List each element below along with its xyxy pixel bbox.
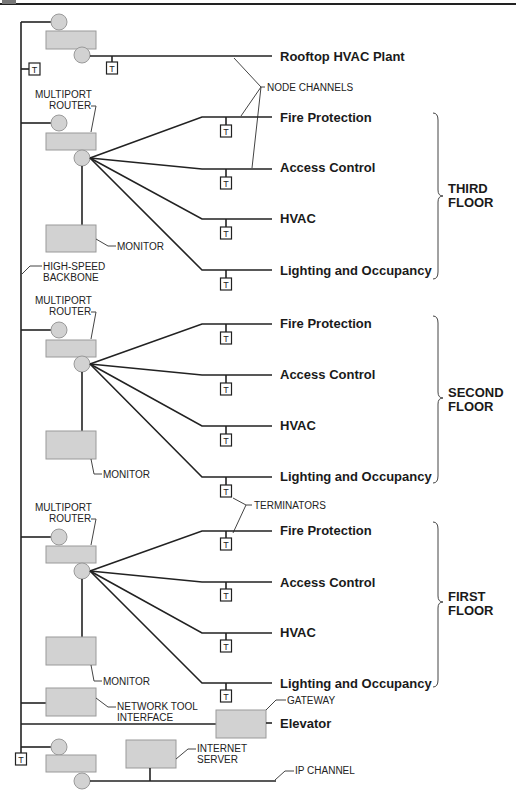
monitor [46, 637, 96, 665]
svg-text:IP CHANNEL: IP CHANNEL [295, 765, 355, 776]
svg-text:T: T [223, 436, 229, 446]
svg-text:MONITOR: MONITOR [103, 469, 150, 480]
top-border [0, 0, 516, 4]
terminator: T [221, 219, 232, 239]
svg-text:NODE CHANNELS: NODE CHANNELS [267, 82, 353, 93]
ip-channel-callout: IP CHANNEL [275, 765, 355, 780]
network-diagram: T T Rooftop HVAC Plant NODE CHANNELS MUL… [0, 0, 516, 796]
terminator: T [221, 477, 232, 497]
channel-access-control: Access Control [280, 575, 375, 590]
floor-label-second: SECOND [448, 385, 504, 400]
svg-text:MULTIPORT: MULTIPORT [35, 295, 92, 306]
channel-access-control: Access Control [280, 367, 375, 382]
svg-text:T: T [223, 692, 229, 702]
channel-hvac: HVAC [280, 211, 316, 226]
svg-text:NETWORK TOOL: NETWORK TOOL [117, 701, 198, 712]
svg-text:TERMINATORS: TERMINATORS [254, 500, 326, 511]
floor-label-first: FIRST [448, 589, 486, 604]
terminator: T [221, 324, 232, 344]
svg-text:T: T [32, 65, 38, 75]
channel-hvac: HVAC [280, 418, 316, 433]
monitor [46, 225, 96, 252]
svg-text:T: T [223, 487, 229, 497]
channel-fire-protection: Fire Protection [280, 523, 372, 538]
svg-text:BACKBONE: BACKBONE [43, 272, 99, 283]
terminator: T [221, 169, 232, 189]
internet-server: INTERNET SERVER [126, 740, 247, 781]
svg-text:MONITOR: MONITOR [103, 676, 150, 687]
svg-text:T: T [223, 127, 229, 137]
svg-text:T: T [223, 334, 229, 344]
svg-text:T: T [223, 385, 229, 395]
terminator: T [221, 375, 232, 395]
channel-fire-protection: Fire Protection [280, 316, 372, 331]
svg-text:FLOOR: FLOOR [448, 195, 494, 210]
terminator: T [221, 531, 232, 550]
rooftop-router [46, 14, 96, 63]
terminator: T [107, 56, 118, 74]
svg-text:FLOOR: FLOOR [448, 603, 494, 618]
terminator: T [221, 633, 232, 652]
svg-text:HIGH-SPEED: HIGH-SPEED [43, 261, 105, 272]
svg-text:ROUTER: ROUTER [49, 513, 91, 524]
channel-elevator: Elevator [280, 716, 331, 731]
channel-fire-protection: Fire Protection [280, 110, 372, 125]
svg-text:MULTIPORT: MULTIPORT [35, 89, 92, 100]
svg-text:T: T [223, 591, 229, 601]
channel-lighting-occupancy: Lighting and Occupancy [280, 263, 432, 278]
svg-text:MONITOR: MONITOR [117, 241, 164, 252]
svg-text:MULTIPORT: MULTIPORT [35, 502, 92, 513]
svg-text:T: T [18, 755, 24, 765]
svg-text:ROUTER: ROUTER [49, 306, 91, 317]
first-floor: MULTIPORT ROUTER T T T T Fire Protection… [21, 502, 494, 702]
svg-text:T: T [223, 179, 229, 189]
svg-text:T: T [109, 64, 115, 74]
svg-text:SERVER: SERVER [197, 754, 238, 765]
channel-hvac: HVAC [280, 625, 316, 640]
channel-access-control: Access Control [280, 160, 375, 175]
svg-text:T: T [223, 642, 229, 652]
svg-text:T: T [223, 540, 229, 550]
svg-text:FLOOR: FLOOR [448, 399, 494, 414]
network-tool-interface: NETWORK TOOL INTERFACE [21, 688, 198, 723]
svg-text:INTERNET: INTERNET [197, 743, 247, 754]
svg-text:T: T [223, 280, 229, 290]
monitor [46, 431, 96, 459]
second-floor: MULTIPORT ROUTER T T T T Fire Protection… [21, 295, 504, 497]
terminator: T [221, 270, 232, 290]
terminator: T [221, 426, 232, 446]
svg-text:ROUTER: ROUTER [49, 100, 91, 111]
svg-text:INTERFACE: INTERFACE [117, 712, 173, 723]
terminator: T [221, 117, 232, 137]
svg-text:T: T [223, 229, 229, 239]
terminator: T [221, 582, 232, 601]
floor-label-third: THIRD [448, 181, 488, 196]
svg-text:GATEWAY: GATEWAY [287, 695, 335, 706]
terminator: T [221, 683, 232, 702]
backbone-terminator-top: T [21, 63, 40, 75]
channel-rooftop-hvac-plant: Rooftop HVAC Plant [280, 49, 405, 64]
channel-lighting-occupancy: Lighting and Occupancy [280, 469, 432, 484]
backbone-terminator-bottom: T [16, 753, 27, 765]
channel-lighting-occupancy: Lighting and Occupancy [280, 676, 432, 691]
